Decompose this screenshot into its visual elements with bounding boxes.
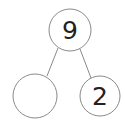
part-node-right: 2 bbox=[80, 76, 120, 116]
whole-value: 9 bbox=[62, 16, 78, 45]
connector-right bbox=[80, 49, 91, 78]
number-bond-diagram: 9 2 bbox=[0, 0, 125, 126]
part-right-value: 2 bbox=[92, 82, 108, 111]
connector-left bbox=[47, 48, 58, 76]
whole-node: 9 bbox=[49, 9, 91, 51]
part-node-left[interactable] bbox=[13, 74, 57, 118]
